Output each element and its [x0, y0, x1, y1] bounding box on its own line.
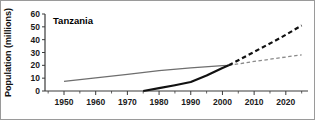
x-tick-label: 2000: [213, 97, 232, 107]
y-axis-label: Population (millions): [3, 8, 13, 97]
y-tick-label: 40: [31, 35, 41, 45]
y-tick-label: 10: [31, 73, 41, 83]
data-series-lines: [64, 26, 302, 91]
x-tick-label: 1950: [55, 97, 74, 107]
series-without-epidemic-projection-dashed: [229, 55, 302, 66]
x-axis-ticks: 19501960197019801990200020102020: [48, 91, 301, 107]
chart-title-text: Tanzania: [53, 15, 94, 26]
y-tick-label: 0: [35, 86, 40, 96]
x-tick-label: 1990: [181, 97, 200, 107]
y-tick-label: 60: [31, 9, 41, 19]
y-tick-label: 30: [31, 48, 41, 58]
series-without-epidemic-projection: [64, 65, 229, 81]
y-axis-ticks: 0102030405060: [31, 9, 45, 96]
chart-title: Tanzania: [53, 15, 94, 26]
x-tick-label: 1980: [150, 97, 169, 107]
population-chart-figure: Population (millions) Tanzania 010203040…: [0, 0, 315, 120]
y-tick-label: 50: [31, 22, 41, 32]
x-tick-label: 1960: [86, 97, 105, 107]
y-axis-label-text: Population (millions): [3, 8, 13, 97]
x-tick-label: 1970: [118, 97, 137, 107]
y-tick-label: 20: [31, 60, 41, 70]
series-with-epidemic-observed: [143, 65, 229, 91]
x-tick-label: 2010: [245, 97, 264, 107]
chart-plot-area: Population (millions) Tanzania 010203040…: [1, 1, 315, 120]
x-tick-label: 2020: [276, 97, 295, 107]
